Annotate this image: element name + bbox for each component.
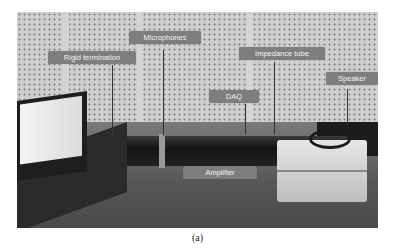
figure-caption: (a)	[0, 232, 395, 243]
leader-line	[112, 65, 113, 137]
label-speaker: Speaker	[326, 72, 378, 85]
leader-line	[347, 89, 348, 125]
wall-seam	[137, 12, 143, 132]
laptop-screen	[17, 91, 87, 181]
cable-coil	[309, 129, 351, 149]
label-daq: DAQ	[209, 90, 259, 103]
leader-line	[245, 104, 246, 134]
wall-seam	[247, 12, 253, 132]
daq-box	[277, 140, 367, 202]
label-impedance-tube: Impedance tube	[239, 47, 325, 60]
label-microphones: Microphones	[129, 31, 201, 44]
microphone-ring	[159, 134, 165, 168]
leader-line	[163, 50, 164, 136]
leader-line	[274, 62, 275, 134]
setup-photo: Rigid termination Microphones Impedance …	[17, 12, 378, 228]
label-rigid-termination: Rigid termination	[48, 51, 136, 64]
label-amplifier: Amplifier	[183, 166, 257, 179]
